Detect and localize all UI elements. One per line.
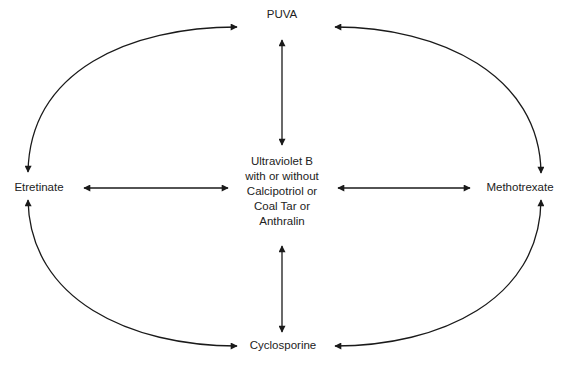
arc-puva-methotrexate bbox=[335, 27, 541, 173]
node-puva: PUVA bbox=[252, 7, 312, 22]
node-etretinate: Etretinate bbox=[4, 180, 74, 195]
center-line-1: Ultraviolet B bbox=[226, 154, 338, 169]
arc-etretinate-cyclosporine bbox=[28, 200, 237, 346]
node-cyclosporine: Cyclosporine bbox=[240, 338, 326, 353]
center-line-3: Calcipotriol or bbox=[226, 184, 338, 199]
center-line-2: with or without bbox=[226, 169, 338, 184]
center-line-5: Anthralin bbox=[226, 214, 338, 229]
center-line-4: Coal Tar or bbox=[226, 199, 338, 214]
node-ultraviolet-b-center: Ultraviolet B with or without Calcipotri… bbox=[226, 154, 338, 229]
arc-cyclosporine-methotrexate bbox=[335, 200, 541, 346]
arc-etretinate-puva bbox=[28, 27, 237, 172]
node-methotrexate: Methotrexate bbox=[475, 180, 565, 195]
